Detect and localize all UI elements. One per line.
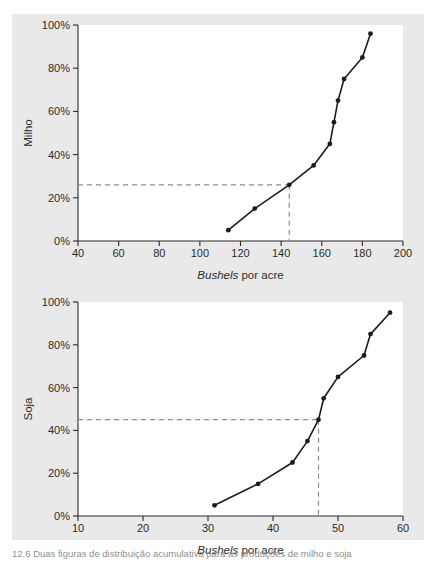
x-axis-tick-label: 50 [332,522,344,534]
y-axis-tick-label: 0% [54,510,70,522]
x-axis-tick-label: 40 [72,247,84,259]
y-axis-title: Milho [22,119,34,146]
x-axis-tick-label: 180 [353,247,371,259]
data-point [332,120,337,125]
y-axis-tick-label: 40% [48,149,70,161]
data-point [388,310,393,315]
data-point [336,375,341,380]
x-axis-tick-label: 100 [191,247,209,259]
data-point [368,31,373,36]
data-point [362,353,367,358]
x-axis-tick-label: 200 [394,247,412,259]
data-point [256,482,261,487]
data-point [252,206,257,211]
y-axis-tick-label: 0% [54,235,70,247]
data-point [226,228,231,233]
y-axis-title: Soja [22,397,34,421]
y-axis-tick-label: 60% [48,105,70,117]
x-axis-tick-label: 60 [397,522,409,534]
data-point [327,141,332,146]
x-axis-tick-label: 20 [137,522,149,534]
chart-soja-svg: 0%20%40%60%80%100%102030405060SojaBushel… [0,280,434,564]
y-axis-tick-label: 40% [48,424,70,436]
data-point [342,77,347,82]
x-axis-tick-label: 80 [153,247,165,259]
data-point [360,55,365,60]
data-point [316,417,321,422]
x-axis-tick-label: 40 [267,522,279,534]
x-axis-tick-label: 160 [313,247,331,259]
figure-caption: 12.6 Duas figuras de distribuição acumul… [12,548,432,559]
x-axis-tick-label: 120 [231,247,249,259]
y-axis-tick-label: 100% [42,296,70,308]
data-point [290,460,295,465]
x-axis-tick-label: 10 [72,522,84,534]
data-point [311,163,316,168]
x-axis-tick-label: 30 [202,522,214,534]
plot-area-background [78,25,403,241]
y-axis-tick-label: 20% [48,192,70,204]
x-axis-tick-label: 140 [272,247,290,259]
data-point [212,503,217,508]
y-axis-tick-label: 80% [48,339,70,351]
y-axis-tick-label: 60% [48,382,70,394]
y-axis-tick-label: 80% [48,62,70,74]
y-axis-tick-label: 100% [42,19,70,31]
data-point [287,182,292,187]
x-axis-tick-label: 60 [113,247,125,259]
plot-area-background [78,302,403,516]
chart-soja: 0%20%40%60%80%100%102030405060SojaBushel… [0,280,434,564]
chart-milho: 0%20%40%60%80%100%4060801001201401601802… [0,0,434,284]
data-point [321,396,326,401]
data-point [336,98,341,103]
y-axis-tick-label: 20% [48,467,70,479]
data-point [368,332,373,337]
chart-milho-svg: 0%20%40%60%80%100%4060801001201401601802… [0,0,434,284]
data-point [305,439,310,444]
